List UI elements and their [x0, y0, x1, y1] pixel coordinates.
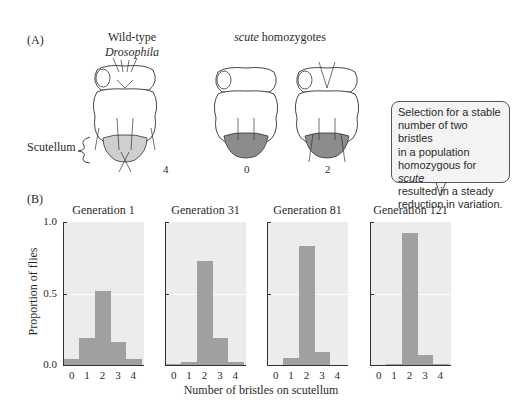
x-tick: 1 — [285, 369, 297, 381]
chart-title: Generation 121 — [360, 203, 461, 218]
y-tick-mark — [63, 294, 67, 295]
bar-1 — [283, 358, 299, 365]
bar-3 — [417, 355, 433, 365]
bar-3 — [314, 352, 330, 365]
y-tick-mark — [63, 222, 67, 223]
scutellum-bracket-icon — [78, 137, 90, 163]
x-tick: 0 — [373, 369, 385, 381]
x-tick: 1 — [183, 369, 195, 381]
x-tick: 0 — [66, 369, 78, 381]
panel-b-label: (B) — [27, 192, 43, 207]
x-tick: 3 — [316, 369, 328, 381]
x-axis-line — [370, 365, 451, 366]
callout-italic-scute: scute — [398, 172, 424, 184]
chart-title: Generation 31 — [155, 203, 256, 218]
x-tick: 3 — [112, 369, 124, 381]
x-axis-line — [165, 365, 246, 366]
x-tick: 4 — [127, 369, 139, 381]
wildtype-count: 4 — [163, 163, 169, 175]
x-tick: 2 — [301, 369, 313, 381]
y-tick-0.5: 0.5 — [33, 287, 57, 299]
x-tick: 4 — [229, 369, 241, 381]
chart-title: Generation 1 — [53, 203, 154, 218]
x-tick: 2 — [404, 369, 416, 381]
x-tick: 3 — [419, 369, 431, 381]
chart-title: Generation 81 — [257, 203, 358, 218]
scute-count-2: 2 — [325, 163, 331, 175]
bar-3 — [212, 338, 228, 365]
scute-fly-0-bristles-icon — [214, 68, 277, 159]
x-tick: 0 — [270, 369, 282, 381]
x-axis-line — [63, 365, 144, 366]
y-tick-mark — [165, 222, 169, 223]
callout-line: resulted in a steady — [398, 185, 503, 198]
x-axis-line — [267, 365, 348, 366]
x-tick: 2 — [199, 369, 211, 381]
callout-line: number of two bristles — [398, 119, 503, 145]
bar-2 — [402, 233, 418, 365]
x-tick: 1 — [388, 369, 400, 381]
x-tick: 3 — [214, 369, 226, 381]
scute-count-0: 0 — [244, 163, 250, 175]
bar-2 — [197, 261, 213, 365]
y-tick-mark — [370, 222, 374, 223]
bar-2 — [299, 246, 315, 365]
x-tick: 4 — [434, 369, 446, 381]
callout-box: Selection for a stable number of two bri… — [391, 101, 510, 183]
x-tick: 1 — [81, 369, 93, 381]
y-tick-mark — [267, 294, 271, 295]
callout-line: homozygous for — [398, 159, 476, 171]
bar-3 — [110, 342, 126, 365]
bar-2 — [95, 291, 111, 365]
x-axis-label: Number of bristles on scutellum — [0, 383, 522, 398]
callout-line: in a population — [398, 146, 503, 159]
x-tick: 2 — [97, 369, 109, 381]
x-tick: 4 — [331, 369, 343, 381]
y-tick-mark — [165, 294, 169, 295]
scute-fly-2-bristles-icon — [295, 62, 358, 162]
callout-line: Selection for a stable — [398, 106, 503, 119]
y-tick-mark — [370, 294, 374, 295]
bar-1 — [79, 338, 95, 365]
y-tick-0.0: 0.0 — [33, 358, 57, 370]
x-tick: 0 — [168, 369, 180, 381]
wildtype-fly-icon — [93, 58, 156, 172]
y-tick-mark — [267, 222, 271, 223]
